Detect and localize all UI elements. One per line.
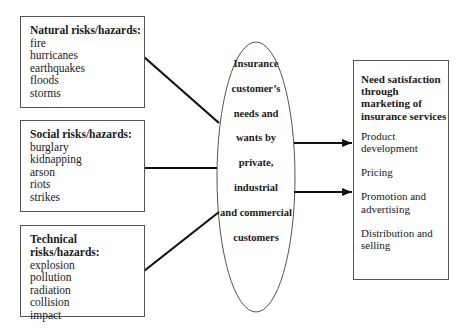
risk-item: collision bbox=[30, 296, 144, 308]
center-line: industrial bbox=[218, 182, 294, 207]
risk-item: explosion bbox=[30, 259, 144, 271]
risk-item: burglary bbox=[30, 141, 144, 153]
center-line: customers bbox=[218, 232, 294, 257]
risk-item: hurricanes bbox=[30, 49, 144, 61]
need-satisfaction-title: Need satisfaction through marketing of i… bbox=[361, 73, 448, 122]
social-risks-title: Social risks/hazards: bbox=[30, 128, 144, 141]
risk-item: kidnapping bbox=[30, 153, 144, 165]
technical-risks-title: Technical risks/hazards: bbox=[30, 233, 144, 259]
center-line: Insurance bbox=[218, 58, 294, 83]
social-risks-box: Social risks/hazards: burglary kidnappin… bbox=[20, 120, 145, 212]
center-line: and commercial bbox=[218, 207, 294, 232]
connector-natural bbox=[144, 57, 219, 123]
risk-item: floods bbox=[30, 74, 144, 86]
risk-item: arson bbox=[30, 166, 144, 178]
risk-item: pollution bbox=[30, 271, 144, 283]
technical-risks-box: Technical risks/hazards: explosion pollu… bbox=[20, 225, 145, 317]
center-line: needs and bbox=[218, 108, 294, 133]
risk-item: riots bbox=[30, 178, 144, 190]
need-satisfaction-box: Need satisfaction through marketing of i… bbox=[353, 60, 449, 280]
center-line: wants by bbox=[218, 132, 294, 157]
natural-risks-title: Natural risks/hazards: bbox=[30, 24, 144, 37]
risk-item: radiation bbox=[30, 284, 144, 296]
risk-item: fire bbox=[30, 37, 144, 49]
customer-needs-text: Insurance customer’s needs and wants by … bbox=[218, 58, 294, 256]
risk-item: impact bbox=[30, 309, 144, 321]
marketing-item: Product development bbox=[361, 130, 448, 154]
center-line: private, bbox=[218, 157, 294, 182]
risk-item: earthquakes bbox=[30, 62, 144, 74]
marketing-item: Promotion and advertising bbox=[361, 190, 448, 214]
center-line: customer’s bbox=[218, 83, 294, 108]
risk-item: strikes bbox=[30, 191, 144, 203]
risk-item: storms bbox=[30, 87, 144, 99]
marketing-item: Distribution and selling bbox=[361, 227, 448, 251]
marketing-item: Pricing bbox=[361, 166, 448, 178]
connector-technical bbox=[144, 212, 219, 271]
natural-risks-box: Natural risks/hazards: fire hurricanes e… bbox=[20, 16, 145, 108]
